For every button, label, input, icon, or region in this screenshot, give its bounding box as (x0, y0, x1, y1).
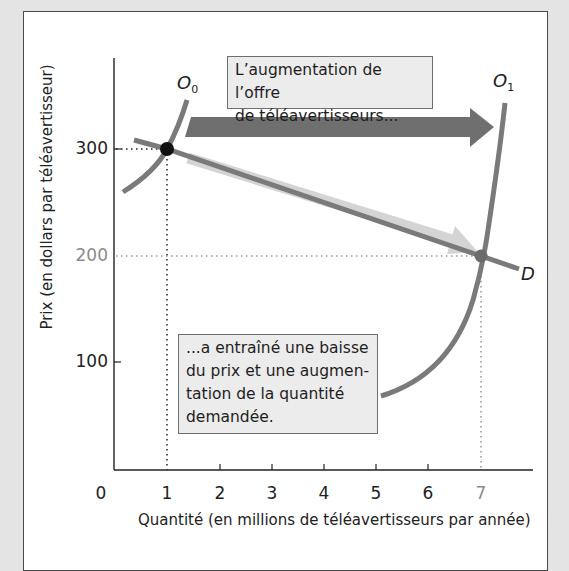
x-tick-label-2: 2 (210, 483, 230, 503)
x-ticks (220, 464, 428, 470)
note-line: L’augmentation de l’offre (235, 59, 425, 105)
note-line: tation de la quantité (186, 383, 370, 406)
y-axis-label: Prix (en dollars par téléavertisseur) (38, 64, 56, 329)
note-line: ...a entraîné une baisse (186, 337, 370, 360)
equilibrium-point-new (475, 250, 488, 263)
note-supply-increase: L’augmentation de l’offre de téléavertis… (227, 56, 433, 109)
x-tick-label-7: 7 (471, 483, 491, 503)
x-tick-label-4: 4 (314, 483, 334, 503)
y-tick-label-100: 100 (58, 351, 108, 371)
y-tick-label-200: 200 (58, 245, 108, 265)
note-price-quantity-change: ...a entraîné une baisse du prix et une … (178, 334, 378, 434)
demand-curve (134, 140, 519, 269)
label-o0: O0 (177, 72, 198, 96)
x-tick-label-1: 1 (157, 483, 177, 503)
label-o1: O1 (493, 70, 514, 94)
equilibrium-point-initial (160, 142, 174, 156)
note-line: du prix et une augmen- (186, 360, 370, 383)
supply-curve-o1 (381, 103, 505, 396)
y-tick-label-300: 300 (58, 138, 108, 158)
x-tick-label-6: 6 (418, 483, 438, 503)
x-tick-label-5: 5 (366, 483, 386, 503)
label-d: D (521, 263, 535, 284)
x-tick-label-3: 3 (262, 483, 282, 503)
x-axis-label: Quantité (en millions de téléavertisseur… (138, 511, 531, 529)
x-tick-label-0: 0 (91, 483, 111, 503)
note-line: demandée. (186, 406, 370, 429)
note-line: de téléavertisseurs... (235, 105, 425, 128)
